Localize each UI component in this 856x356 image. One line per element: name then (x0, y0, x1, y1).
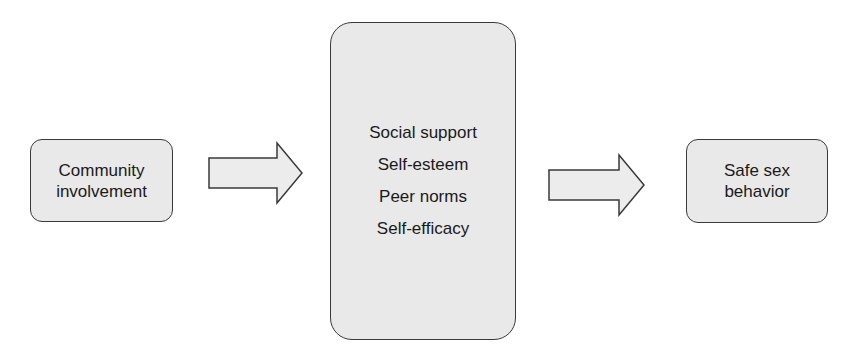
node-label-line: Safe sex (724, 160, 790, 181)
mediator-self-efficacy: Self-efficacy (377, 219, 469, 239)
node-safe-sex-behavior: Safe sex behavior (686, 139, 828, 223)
node-mediators: Social support Self-esteem Peer norms Se… (330, 22, 516, 340)
mediator-self-esteem: Self-esteem (378, 155, 469, 175)
node-community-involvement: Community involvement (30, 139, 173, 222)
node-label-line: behavior (724, 181, 789, 202)
node-label-line: Community (59, 160, 145, 181)
arrow-right-icon (547, 153, 647, 217)
mediator-social-support: Social support (369, 123, 477, 143)
arrow-right-icon (207, 141, 305, 205)
node-label-line: involvement (56, 181, 147, 202)
mediator-peer-norms: Peer norms (379, 187, 467, 207)
